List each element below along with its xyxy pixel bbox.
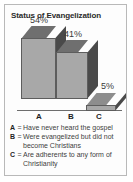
- legend-separator-b: =: [16, 132, 23, 141]
- chart-title: Status of Evangelization: [11, 11, 101, 20]
- bar-a-front-face: [21, 38, 56, 99]
- category-label-a: A: [32, 112, 46, 121]
- bar-a-value-label: 54%: [30, 15, 48, 25]
- legend-text-c: Are adherents to any form of Christianit…: [23, 150, 123, 168]
- bar-b-value-label: 41%: [64, 29, 82, 39]
- legend-item-c: C = Are adherents to any form of Christi…: [10, 150, 123, 168]
- chart-figure: Status of Evangelization 54% 41% 5% A B …: [4, 4, 127, 176]
- bar-c-value-label: 5%: [101, 81, 114, 91]
- bar-c-side-face: [115, 93, 126, 111]
- bar-b-side-face: [87, 40, 98, 99]
- category-label-c: C: [92, 112, 106, 121]
- legend-item-a: A = Have never heard the gospel: [10, 123, 123, 132]
- plot-area: 54% 41% 5% A B C: [5, 21, 126, 121]
- chart-legend: A = Have never heard the gospel B = Were…: [10, 123, 123, 168]
- bar-c-front-face: [86, 105, 116, 111]
- legend-separator-a: =: [16, 123, 23, 132]
- legend-text-a: Have never heard the gospel: [23, 123, 123, 132]
- bar-b-front-face: [56, 52, 88, 99]
- legend-item-b: B = Were evangelized but did not become …: [10, 132, 123, 150]
- category-label-b: B: [64, 112, 78, 121]
- legend-separator-c: =: [16, 150, 23, 159]
- legend-text-b: Were evangelized but did not become Chri…: [23, 132, 123, 150]
